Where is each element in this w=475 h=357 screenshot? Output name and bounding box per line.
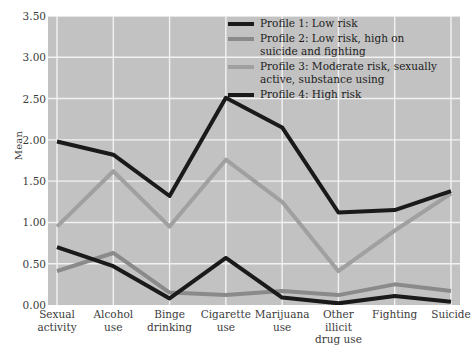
legend-item[interactable]: Profile 3: Moderate risk, sexually activ…: [228, 60, 460, 86]
series-line: [57, 253, 451, 295]
legend-item[interactable]: Profile 2: Low risk, high on suicide and…: [228, 32, 460, 58]
legend-color-swatch: [228, 22, 254, 26]
legend-item[interactable]: Profile 1: Low risk: [228, 17, 460, 30]
x-axis-tick-label: Other illicit drug use: [307, 308, 369, 346]
y-axis-tick-label: 3.50: [2, 11, 46, 21]
legend-item[interactable]: Profile 4: High risk: [228, 88, 460, 101]
y-axis-tick-label: 3.00: [2, 52, 46, 62]
legend-color-swatch: [228, 37, 254, 41]
y-axis-tick-label: 1.50: [2, 176, 46, 186]
x-axis-tick-label: Fighting: [364, 308, 426, 321]
series-line: [57, 98, 451, 213]
x-axis-tick-label: Cigarette use: [195, 308, 257, 333]
y-axis-tick-label: 2.50: [2, 94, 46, 104]
legend-color-swatch: [228, 65, 254, 69]
legend-item-label: Profile 2: Low risk, high on suicide and…: [260, 32, 404, 58]
x-axis-tick-labels: Sexual activityAlcohol useBinge drinking…: [48, 308, 460, 357]
y-axis-tick-label: 0.50: [2, 259, 46, 269]
x-axis-tick-label: Marijuana use: [251, 308, 313, 333]
x-axis-tick-label: Binge drinking: [139, 308, 201, 333]
y-axis-tick-labels: 0.000.501.001.502.002.503.003.50: [0, 0, 46, 357]
x-axis-tick-label: Suicide: [420, 308, 475, 321]
legend: Profile 1: Low riskProfile 2: Low risk, …: [228, 17, 460, 103]
x-axis-tick-label: Alcohol use: [82, 308, 144, 333]
legend-color-swatch: [228, 93, 254, 97]
y-axis-tick-label: 1.00: [2, 217, 46, 227]
y-axis-tick-label: 2.00: [2, 135, 46, 145]
legend-item-label: Profile 3: Moderate risk, sexually activ…: [260, 60, 437, 86]
legend-item-label: Profile 4: High risk: [260, 88, 361, 101]
legend-item-label: Profile 1: Low risk: [260, 17, 358, 30]
x-axis-tick-label: Sexual activity: [26, 308, 88, 333]
